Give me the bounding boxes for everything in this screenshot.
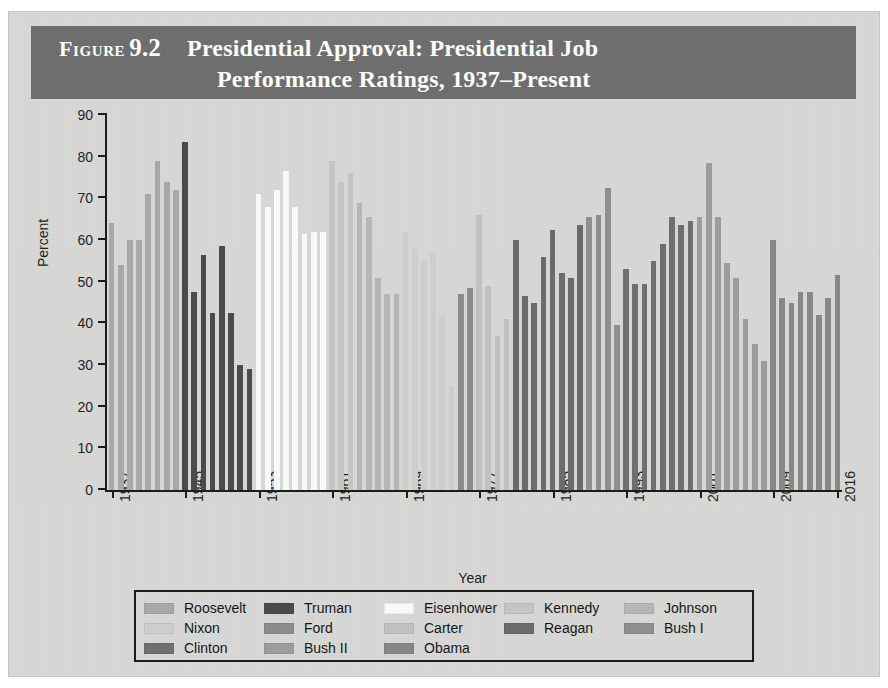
x-axis-tick bbox=[406, 490, 408, 498]
bar bbox=[375, 278, 381, 491]
bar bbox=[292, 207, 298, 490]
bar bbox=[109, 223, 115, 490]
x-axis-tick bbox=[837, 490, 839, 498]
legend-label: Bush I bbox=[664, 620, 704, 636]
y-axis-tick-label: 20 bbox=[77, 399, 93, 415]
legend-item-nixon: Nixon bbox=[144, 620, 264, 636]
legend-label: Truman bbox=[304, 600, 352, 616]
bar bbox=[752, 344, 758, 490]
bar bbox=[467, 288, 473, 490]
bar bbox=[632, 284, 638, 490]
bar bbox=[531, 303, 537, 491]
y-axis-tick-label: 10 bbox=[77, 440, 93, 456]
figure-number: 9.2 bbox=[129, 34, 161, 61]
bar bbox=[265, 207, 271, 490]
legend-item-johnson: Johnson bbox=[624, 600, 744, 616]
y-axis-tick: 90 bbox=[98, 113, 107, 115]
y-axis-tick-label: 60 bbox=[77, 232, 93, 248]
legend-row: ClintonBush IIObama bbox=[144, 638, 744, 658]
y-axis-tick: 60 bbox=[98, 238, 107, 240]
legend-swatch bbox=[384, 623, 414, 634]
legend-item-truman: Truman bbox=[264, 600, 384, 616]
y-axis-tick: 0 bbox=[98, 488, 107, 490]
bar bbox=[623, 269, 629, 490]
figure-title-line-1: Presidential Approval: Presidential Job bbox=[187, 35, 598, 61]
legend-label: Eisenhower bbox=[424, 600, 497, 616]
bar bbox=[394, 294, 400, 490]
bar bbox=[550, 230, 556, 490]
bar bbox=[201, 255, 207, 490]
bar bbox=[605, 188, 611, 490]
bar-layer bbox=[107, 115, 842, 490]
bar bbox=[559, 273, 565, 490]
bar bbox=[568, 278, 574, 491]
x-axis-tick bbox=[553, 490, 555, 498]
bar bbox=[366, 217, 372, 490]
bar bbox=[145, 194, 151, 490]
legend-label: Nixon bbox=[184, 620, 220, 636]
legend-swatch bbox=[504, 623, 534, 634]
x-axis-tick bbox=[112, 490, 114, 498]
bar bbox=[421, 261, 427, 490]
bar bbox=[779, 298, 785, 490]
bar bbox=[835, 275, 841, 490]
figure-header-band: Figure9.2Presidential Approval: Presiden… bbox=[31, 26, 856, 99]
legend-label: Clinton bbox=[184, 640, 228, 656]
legend-swatch bbox=[384, 643, 414, 654]
legend-swatch bbox=[384, 603, 414, 614]
legend-item-eisenhower: Eisenhower bbox=[384, 600, 504, 616]
x-axis-tick-label: 2016 bbox=[842, 471, 858, 502]
bar bbox=[329, 161, 335, 490]
y-axis-tick-label: 50 bbox=[77, 274, 93, 290]
x-axis-tick bbox=[332, 490, 334, 498]
legend-item-ford: Ford bbox=[264, 620, 384, 636]
legend-label: Obama bbox=[424, 640, 470, 656]
y-axis-tick-label: 0 bbox=[85, 482, 93, 498]
bar bbox=[173, 190, 179, 490]
legend-swatch bbox=[144, 643, 174, 654]
legend-row: NixonFordCarterReaganBush I bbox=[144, 618, 744, 638]
bar bbox=[642, 284, 648, 490]
y-axis-tick: 50 bbox=[98, 280, 107, 282]
bar bbox=[706, 163, 712, 490]
legend-swatch bbox=[264, 603, 294, 614]
bar bbox=[247, 369, 253, 490]
bar bbox=[761, 361, 767, 490]
bar bbox=[210, 313, 216, 490]
legend-swatch bbox=[624, 623, 654, 634]
legend-swatch bbox=[144, 623, 174, 634]
bar bbox=[256, 194, 262, 490]
x-axis-tick bbox=[185, 490, 187, 498]
bar bbox=[770, 240, 776, 490]
legend-label: Reagan bbox=[544, 620, 593, 636]
bar bbox=[586, 217, 592, 490]
y-axis-tick: 70 bbox=[98, 196, 107, 198]
legend-swatch bbox=[264, 623, 294, 634]
legend-label: Johnson bbox=[664, 600, 717, 616]
bar bbox=[302, 234, 308, 490]
x-axis-tick bbox=[700, 490, 702, 498]
figure-title-line-2: Performance Ratings, 1937–Present bbox=[217, 66, 590, 92]
bar bbox=[458, 294, 464, 490]
y-axis-tick-label: 80 bbox=[77, 149, 93, 165]
bar bbox=[384, 294, 390, 490]
bar bbox=[412, 248, 418, 490]
bar bbox=[274, 190, 280, 490]
bar bbox=[191, 292, 197, 490]
bar bbox=[164, 182, 170, 490]
legend-label: Bush II bbox=[304, 640, 348, 656]
y-axis-title: Percent bbox=[35, 219, 51, 267]
legend-label: Kennedy bbox=[544, 600, 599, 616]
y-axis-tick: 10 bbox=[98, 446, 107, 448]
bar bbox=[485, 286, 491, 490]
bar bbox=[439, 315, 445, 490]
bar bbox=[715, 217, 721, 490]
x-axis-tick bbox=[479, 490, 481, 498]
legend-item-obama: Obama bbox=[384, 640, 504, 656]
bar bbox=[743, 319, 749, 490]
bar bbox=[182, 142, 188, 490]
legend-row: RooseveltTrumanEisenhowerKennedyJohnson bbox=[144, 598, 744, 618]
legend-item-bush-ii: Bush II bbox=[264, 640, 384, 656]
legend-item-kennedy: Kennedy bbox=[504, 600, 624, 616]
bar bbox=[798, 292, 804, 490]
